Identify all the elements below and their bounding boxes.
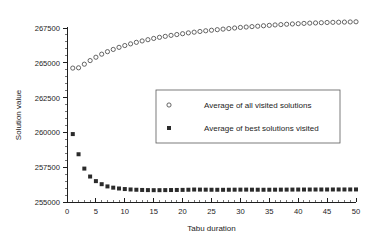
x-tick-label: 45: [323, 207, 331, 216]
data-point-filled-square: [215, 188, 219, 192]
x-tick-label: 50: [352, 207, 360, 216]
data-point-open-circle: [215, 28, 219, 32]
data-point-open-circle: [261, 24, 265, 28]
y-axis-title: Solution value: [14, 89, 23, 140]
data-point-open-circle: [342, 20, 346, 24]
data-point-filled-square: [94, 179, 98, 183]
data-point-filled-square: [296, 188, 300, 192]
data-point-open-circle: [169, 33, 173, 37]
data-point-filled-square: [238, 188, 242, 192]
data-point-filled-square: [192, 188, 196, 192]
data-point-filled-square: [221, 188, 225, 192]
data-point-open-circle: [209, 28, 213, 32]
data-point-filled-square: [233, 188, 237, 192]
data-point-open-circle: [134, 40, 138, 44]
data-point-filled-square: [163, 188, 167, 192]
data-point-open-circle: [146, 38, 150, 42]
data-point-open-circle: [227, 26, 231, 30]
data-point-filled-square: [134, 188, 138, 192]
data-point-filled-square: [88, 175, 92, 179]
data-point-open-circle: [105, 50, 109, 54]
data-point-open-circle: [233, 26, 237, 30]
data-point-open-circle: [290, 22, 294, 26]
data-point-filled-square: [250, 188, 254, 192]
data-point-filled-square: [129, 187, 133, 191]
data-point-open-circle: [140, 39, 144, 43]
data-point-filled-square: [279, 188, 283, 192]
data-point-open-circle: [256, 24, 260, 28]
data-point-open-circle: [285, 22, 289, 26]
data-point-open-circle: [175, 32, 179, 36]
data-point-filled-square: [337, 187, 341, 191]
x-tick-label: 25: [207, 207, 215, 216]
data-point-open-circle: [221, 27, 225, 31]
data-point-open-circle: [128, 42, 132, 46]
x-tick-label: 35: [265, 207, 273, 216]
data-point-filled-square: [273, 188, 277, 192]
data-point-filled-square: [140, 188, 144, 192]
data-point-filled-square: [175, 188, 179, 192]
data-point-open-circle: [296, 22, 300, 26]
data-point-filled-square: [285, 188, 289, 192]
data-point-open-circle: [354, 20, 358, 24]
x-axis-title: Tabu duration: [187, 224, 235, 233]
data-point-filled-square: [105, 184, 109, 188]
y-tick-label: 265000: [35, 59, 60, 68]
data-point-open-circle: [76, 66, 80, 70]
legend-label: Average of all visited solutions: [204, 101, 311, 110]
x-tick-label: 0: [65, 207, 69, 216]
y-tick-label: 257500: [35, 163, 60, 172]
data-point-filled-square: [111, 186, 115, 190]
data-point-filled-square: [256, 188, 260, 192]
data-point-filled-square: [348, 187, 352, 191]
data-point-filled-square: [198, 188, 202, 192]
data-point-open-circle: [100, 52, 104, 56]
data-point-filled-square: [210, 188, 214, 192]
data-point-filled-square: [71, 132, 75, 136]
data-point-filled-square: [204, 188, 208, 192]
data-point-open-circle: [82, 62, 86, 66]
data-point-open-circle: [302, 21, 306, 25]
y-tick-label: 262500: [35, 94, 60, 103]
x-tick-label: 15: [149, 207, 157, 216]
data-point-filled-square: [325, 187, 329, 191]
legend-label: Average of best solutions visited: [204, 124, 319, 133]
data-point-filled-square: [262, 188, 266, 192]
data-point-filled-square: [181, 188, 185, 192]
data-point-open-circle: [157, 35, 161, 39]
data-point-filled-square: [354, 187, 358, 191]
scatter-chart: 2550002575002600002625002650002675000510…: [0, 0, 375, 243]
data-point-open-circle: [313, 21, 317, 25]
data-point-open-circle: [186, 31, 190, 35]
data-point-open-circle: [238, 25, 242, 29]
data-point-open-circle: [325, 20, 329, 24]
data-point-filled-square: [117, 186, 121, 190]
data-point-filled-square: [308, 188, 312, 192]
x-tick-label: 30: [236, 207, 244, 216]
y-tick-label: 267500: [35, 24, 60, 33]
data-point-open-circle: [71, 66, 75, 70]
data-point-open-circle: [267, 23, 271, 27]
data-point-open-circle: [348, 20, 352, 24]
data-point-open-circle: [308, 21, 312, 25]
data-point-open-circle: [273, 23, 277, 27]
data-point-filled-square: [152, 188, 156, 192]
y-tick-label: 255000: [35, 198, 60, 207]
x-tick-label: 5: [94, 207, 98, 216]
x-tick-label: 10: [121, 207, 129, 216]
series-all-visited: [71, 20, 358, 70]
x-tick-label: 20: [178, 207, 186, 216]
data-point-open-circle: [181, 32, 185, 36]
data-point-open-circle: [192, 30, 196, 34]
data-point-filled-square: [227, 188, 231, 192]
data-point-filled-square: [169, 188, 173, 192]
data-point-filled-square: [146, 188, 150, 192]
data-point-open-circle: [279, 22, 283, 26]
data-point-filled-square: [331, 187, 335, 191]
data-point-filled-square: [123, 187, 127, 191]
data-point-filled-square: [82, 167, 86, 171]
data-point-open-circle: [244, 25, 248, 29]
data-point-filled-square: [302, 188, 306, 192]
data-point-filled-square: [319, 187, 323, 191]
data-point-filled-square: [186, 188, 190, 192]
